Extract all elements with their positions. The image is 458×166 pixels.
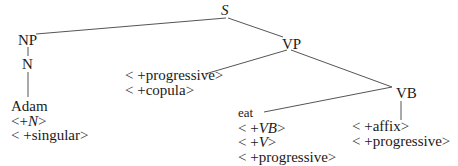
feature-item: < +progressive> bbox=[125, 68, 223, 83]
close-angle: > bbox=[215, 67, 223, 83]
word-eat: eat bbox=[238, 106, 336, 121]
node-np: NP bbox=[18, 33, 37, 48]
feature-item: < +progressive> bbox=[238, 150, 336, 165]
feature-value: progressive bbox=[373, 133, 442, 149]
feature-item: < +copula> bbox=[125, 83, 223, 98]
open-angle: < bbox=[238, 149, 246, 165]
feature-item: < +singular> bbox=[11, 128, 88, 143]
close-angle: > bbox=[186, 82, 194, 98]
adam-leaf: Adam <+N> < +singular> bbox=[11, 99, 88, 143]
vb-feature-bundle: < +affix> < +progressive> bbox=[352, 119, 450, 148]
feature-item: < +VB> bbox=[238, 121, 336, 136]
feature-sign: + bbox=[250, 149, 258, 165]
feature-item: <+N> bbox=[11, 114, 88, 129]
close-angle: > bbox=[80, 127, 88, 143]
close-angle: > bbox=[442, 133, 450, 149]
feature-sign: + bbox=[23, 127, 31, 143]
syntax-tree-diagram: S NP VP N VB < +progressive> < +copula> … bbox=[0, 0, 458, 166]
feature-item: < +affix> bbox=[352, 119, 450, 134]
node-n: N bbox=[22, 57, 33, 72]
open-angle: < bbox=[352, 133, 360, 149]
edge-vp-vb bbox=[291, 50, 392, 87]
feature-item: < +progressive> bbox=[352, 134, 450, 149]
feature-value: singular bbox=[32, 127, 80, 143]
feature-item: < +V> bbox=[238, 135, 336, 150]
eat-leaf: eat < +VB> < +V> < +progressive> bbox=[238, 106, 336, 164]
feature-sign: + bbox=[364, 133, 372, 149]
open-angle: < bbox=[125, 82, 133, 98]
feature-value: progressive bbox=[259, 149, 328, 165]
edge-s-vp bbox=[228, 18, 283, 37]
vp-feature-bundle: < +progressive> < +copula> bbox=[125, 68, 223, 97]
feature-value: copula bbox=[146, 82, 186, 98]
edge-s-np bbox=[36, 18, 226, 34]
node-s: S bbox=[221, 3, 229, 18]
node-vb: VB bbox=[396, 86, 417, 101]
open-angle: < bbox=[11, 127, 19, 143]
close-angle: > bbox=[277, 120, 285, 136]
node-vp: VP bbox=[282, 37, 301, 52]
word-adam: Adam bbox=[11, 99, 88, 114]
feature-sign: + bbox=[137, 82, 145, 98]
close-angle: > bbox=[328, 149, 336, 165]
